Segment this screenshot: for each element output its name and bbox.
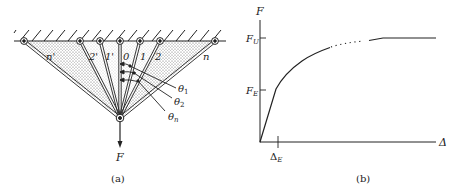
pin-node-2 xyxy=(157,38,164,45)
member-label-2: 2 xyxy=(154,51,161,62)
load-curve-solid xyxy=(260,48,330,143)
load-curve-dotted xyxy=(331,41,364,47)
fu-label: FU xyxy=(245,33,260,46)
pin-node-n xyxy=(212,38,219,45)
pin-node-bottom xyxy=(116,114,124,122)
caption-b: (b) xyxy=(356,173,370,184)
member-label-0: 0 xyxy=(123,51,130,62)
member-label-n: n xyxy=(203,51,209,62)
load-curve-plateau xyxy=(369,38,436,41)
y-axis-label: F xyxy=(255,5,264,18)
caption-a: (a) xyxy=(111,173,125,184)
pin-node-2-prime xyxy=(77,38,84,45)
load-label: F xyxy=(115,151,124,164)
member-label-1: 1 xyxy=(140,51,146,62)
pin-node-0 xyxy=(117,38,124,45)
member-label-1-prime: 1' xyxy=(105,51,114,62)
load-arrow xyxy=(118,122,123,148)
member-label-n-prime: n' xyxy=(46,51,55,62)
pin-node-1 xyxy=(137,38,144,45)
de-label: ΔE xyxy=(270,151,282,164)
x-axis-label: Δ xyxy=(438,136,447,149)
pin-node-n-prime xyxy=(21,38,28,45)
angle-label-theta1: θ1 xyxy=(178,83,189,96)
fe-label: FE xyxy=(245,85,258,98)
member-label-2-prime: 2' xyxy=(88,51,98,62)
figure-canvas: n' 2' 1' 0 1 2 n θ1 θ2 θn F (a) F Δ FU F… xyxy=(0,0,453,194)
angle-label-thetan: θn xyxy=(168,111,179,124)
pin-node-1-prime xyxy=(97,38,104,45)
figure-a: n' 2' 1' 0 1 2 n θ1 θ2 θn F (a) xyxy=(14,30,226,184)
figure-b: F Δ FU FE ΔE (b) xyxy=(245,5,447,184)
angle-label-theta2: θ2 xyxy=(174,96,185,109)
